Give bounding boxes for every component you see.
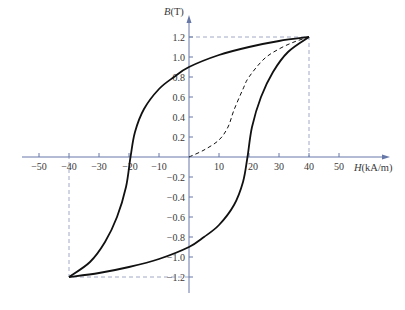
x-tick-label: 20	[248, 161, 258, 172]
x-tick-label: −40	[61, 161, 77, 172]
x-axis-title: H(kA/m)	[353, 162, 393, 174]
x-tick-label: 40	[304, 161, 314, 172]
y-axis-arrow-icon	[187, 15, 192, 23]
x-axis-unit: (kA/m)	[362, 162, 393, 174]
x-tick-label: 30	[274, 161, 284, 172]
y-tick-label: 0.6	[173, 92, 186, 103]
x-tick-label: −10	[151, 161, 167, 172]
guide-positive-saturation	[189, 37, 309, 157]
y-tick-label: −0.2	[167, 172, 185, 183]
y-tick-label: 1.2	[173, 32, 186, 43]
y-tick-label: 0.2	[173, 132, 186, 143]
x-tick-label: 50	[334, 161, 344, 172]
y-tick-label: −0.6	[167, 212, 185, 223]
y-axis-unit: (T)	[170, 6, 184, 18]
y-tick-label: 0.4	[173, 112, 186, 123]
x-axis-arrow-icon	[382, 155, 390, 160]
x-tick-label: −30	[91, 161, 107, 172]
y-tick-label: −0.4	[167, 192, 185, 203]
y-tick-label: −1.2	[167, 272, 185, 283]
y-tick-label: 1.0	[173, 52, 186, 63]
axes	[22, 15, 390, 293]
y-axis-title: B(T)	[164, 6, 184, 18]
x-tick-label: 10	[214, 161, 224, 172]
hysteresis-chart: −50−40−30−20−1010203040501.21.00.80.60.4…	[0, 0, 405, 310]
initial-magnetization-curve	[189, 37, 309, 157]
x-tick-label: −50	[31, 161, 47, 172]
y-tick-label: −0.8	[167, 232, 185, 243]
